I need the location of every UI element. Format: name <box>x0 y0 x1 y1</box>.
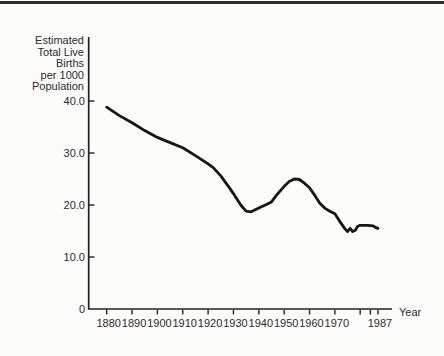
x-tick-label: 1960 <box>299 317 323 329</box>
x-tick-label: 1900 <box>147 317 171 329</box>
y-axis-title-line: Population <box>32 81 84 93</box>
x-tick-label: 1920 <box>198 317 222 329</box>
x-axis-label: Year <box>399 306 421 318</box>
x-tick-label: 1940 <box>249 317 273 329</box>
y-axis-title: Estimated Total Live Births per 1000 Pop… <box>32 35 84 93</box>
y-tick-label: 40.0 <box>64 95 85 107</box>
x-tick-label: 1880 <box>96 317 120 329</box>
birth-rate-line <box>107 107 378 231</box>
y-tick-label: 10.0 <box>64 251 85 263</box>
axes <box>89 37 392 309</box>
scanned-chart-page: 010.020.030.040.018801890190019101920193… <box>0 0 444 356</box>
y-tick-label: 20.0 <box>64 199 85 211</box>
x-tick-label: 1910 <box>173 317 197 329</box>
x-tick-label: 1930 <box>223 317 247 329</box>
x-tick-label: 1970 <box>325 317 349 329</box>
y-axis-title-line: Estimated <box>32 35 84 47</box>
x-tick-label: 1890 <box>122 317 146 329</box>
x-tick-label: 1950 <box>274 317 298 329</box>
y-tick-label: 30.0 <box>64 147 85 159</box>
y-tick-label: 0 <box>79 303 85 315</box>
x-tick-label: 1987 <box>368 317 392 329</box>
